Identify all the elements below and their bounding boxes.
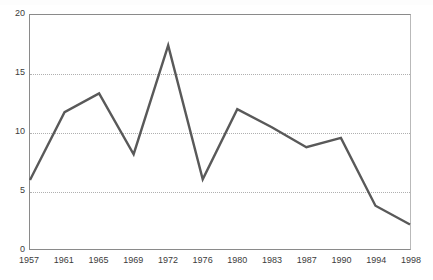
- x-tick-label: 1998: [391, 256, 431, 265]
- line-chart: 05101520 1957196119651969197219761980198…: [0, 0, 433, 280]
- x-axis-tick-labels: 1957196119651969197219761980198319871990…: [0, 0, 433, 280]
